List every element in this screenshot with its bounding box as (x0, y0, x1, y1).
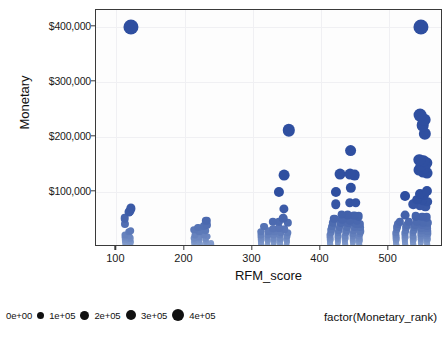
data-point (400, 211, 409, 220)
y-tick-mark (91, 135, 95, 136)
data-point (260, 223, 268, 231)
y-tick-label: $300,000 (49, 75, 91, 87)
x-tick-label: 200 (174, 252, 192, 264)
plot-area: $100,000$200,000$300,000$400,000 1002003… (0, 0, 443, 300)
y-tick-label: $100,000 (49, 185, 91, 197)
data-point (127, 227, 135, 235)
data-point (282, 124, 294, 136)
data-point (413, 108, 426, 121)
legend-size-scale: 0e+001e+052e+053e+054e+05 (6, 309, 215, 321)
legend-title: factor(Monetary_rank) (324, 311, 437, 323)
plot-panel (95, 9, 442, 246)
x-tick-label: 300 (242, 252, 260, 264)
data-point (414, 19, 429, 34)
y-axis-title: Monetary (17, 43, 32, 163)
legend-key-label: 0e+00 (6, 310, 32, 321)
legend-dot (37, 312, 44, 319)
data-point (331, 199, 341, 209)
legend-key-label: 1e+05 (49, 310, 75, 321)
data-point (422, 186, 432, 196)
data-point (279, 214, 288, 223)
y-axis-ticks: $100,000$200,000$300,000$400,000 (0, 0, 91, 300)
legend-key-label: 2e+05 (94, 310, 120, 321)
gridline-vertical (253, 10, 254, 245)
legend-key-label: 3e+05 (141, 310, 167, 321)
data-point (337, 210, 346, 219)
x-tick-mark (319, 246, 320, 250)
data-point (400, 191, 410, 201)
data-point (123, 19, 138, 34)
x-tick-label: 100 (106, 252, 124, 264)
legend-dot (172, 309, 184, 321)
x-tick-mark (251, 246, 252, 250)
data-point (345, 145, 357, 157)
x-tick-label: 500 (378, 252, 396, 264)
x-tick-mark (387, 246, 388, 250)
data-point (279, 204, 288, 213)
legend-key-label: 4e+05 (189, 310, 215, 321)
x-axis-title: RFM_score (95, 268, 442, 283)
legend-dot (80, 311, 89, 320)
y-tick-label: $200,000 (49, 130, 91, 142)
x-tick-label: 400 (310, 252, 328, 264)
data-point (331, 187, 341, 197)
gridline-vertical (116, 10, 117, 245)
y-tick-mark (91, 190, 95, 191)
y-tick-mark (91, 80, 95, 81)
x-tick-mark (115, 246, 116, 250)
scatter-plot-figure: $100,000$200,000$300,000$400,000 1002003… (0, 0, 443, 344)
x-tick-mark (183, 246, 184, 250)
gridline-vertical (185, 10, 186, 245)
gridline-vertical (389, 10, 390, 245)
gridline-vertical (321, 10, 322, 245)
data-point (278, 170, 289, 181)
data-point (274, 187, 284, 197)
y-tick-label: $400,000 (49, 20, 91, 32)
legend: 0e+001e+052e+053e+054e+05 factor(Monetar… (0, 300, 443, 344)
data-point (351, 198, 361, 208)
data-point (344, 168, 355, 179)
data-point (411, 212, 420, 221)
legend-dot (126, 310, 137, 321)
y-tick-mark (91, 25, 95, 26)
